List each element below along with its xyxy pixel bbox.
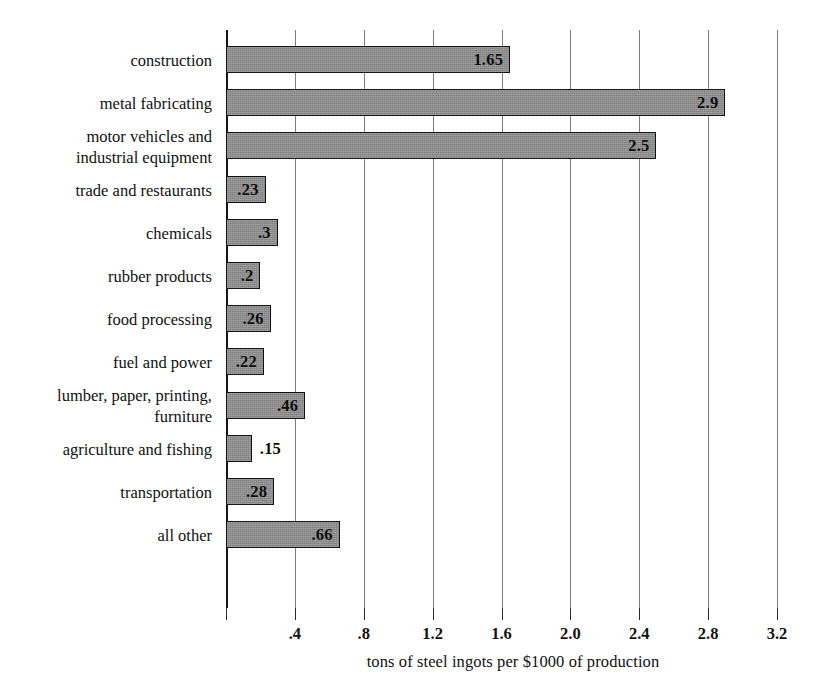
bar (226, 132, 656, 159)
bar-row: 2.5 (226, 132, 777, 159)
category-label: food processing (0, 309, 212, 330)
category-label: agriculture and fishing (0, 439, 212, 460)
category-label: metal fabricating (0, 93, 212, 114)
bar-row: .15 (226, 435, 777, 462)
x-axis-tick (226, 608, 227, 620)
bar (226, 435, 252, 462)
category-label: rubber products (0, 266, 212, 287)
bar-row: .28 (226, 478, 777, 505)
bar-value-label: 2.9 (697, 89, 725, 116)
plot-area: 1.652.92.5.23.3.2.26.22.46.15.28.66 (226, 30, 777, 608)
x-axis-tick (639, 608, 640, 620)
bar-row: .3 (226, 219, 777, 246)
x-axis-tick-label: 1.2 (422, 624, 443, 644)
x-axis-tick-label: 2.8 (698, 624, 719, 644)
bar-value-label: .26 (243, 305, 271, 332)
x-axis-tick-label: .8 (358, 624, 370, 644)
bar-value-label: .28 (246, 478, 274, 505)
bar (226, 89, 725, 116)
bar-value-label: .22 (236, 348, 264, 375)
x-axis-tick (502, 608, 503, 620)
category-label: fuel and power (0, 352, 212, 373)
bar-value-label: .15 (252, 435, 281, 462)
bar (226, 46, 510, 73)
x-axis-tick-label: 2.0 (560, 624, 581, 644)
x-axis-tick (295, 608, 296, 620)
x-axis-tick-label: .4 (289, 624, 301, 644)
category-label: construction (0, 50, 212, 71)
bar-value-label: 2.5 (628, 132, 656, 159)
gridline (777, 30, 778, 608)
bar-value-label: 1.65 (473, 46, 510, 73)
bar-row: .22 (226, 348, 777, 375)
bar-value-label: .23 (237, 176, 265, 203)
category-label: all other (0, 525, 212, 546)
x-axis-title-text: tons of steel ingots per $1000 of produc… (167, 652, 660, 672)
category-label: motor vehicles and industrial equipment (0, 126, 212, 168)
bar-value-label: .2 (241, 262, 261, 289)
category-label: lumber, paper, printing, furniture (0, 385, 212, 427)
x-axis-tick (708, 608, 709, 620)
category-label: transportation (0, 482, 212, 503)
x-axis-tick (364, 608, 365, 620)
x-axis-title: tons of steel ingots per $1000 of produc… (0, 652, 826, 672)
bar-value-label: .66 (311, 521, 339, 548)
x-axis-tick-label: 1.6 (491, 624, 512, 644)
bar-chart: 1.652.92.5.23.3.2.26.22.46.15.28.66 cons… (0, 0, 826, 686)
x-axis-tick (433, 608, 434, 620)
bar-row: 2.9 (226, 89, 777, 116)
x-axis-tick-label: 2.4 (629, 624, 650, 644)
bar-row: 1.65 (226, 46, 777, 73)
x-axis-tick (777, 608, 778, 620)
x-axis-tick (570, 608, 571, 620)
x-axis-tick-label: 3.2 (767, 624, 788, 644)
bar-value-label: .46 (277, 392, 305, 419)
category-label: chemicals (0, 223, 212, 244)
bar-value-label: .3 (258, 219, 278, 246)
category-label: trade and restaurants (0, 180, 212, 201)
bar-row: .66 (226, 521, 777, 548)
bar-row: .23 (226, 176, 777, 203)
bar-row: .46 (226, 392, 777, 419)
bar-row: .2 (226, 262, 777, 289)
bar-row: .26 (226, 305, 777, 332)
